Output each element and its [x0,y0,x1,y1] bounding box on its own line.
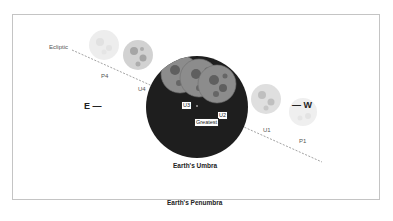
moon-u2-position [198,65,236,103]
u4-label: U4 [138,86,146,92]
greatest-label: Greatest [194,118,219,127]
p1-label: P1 [299,138,306,144]
umbra-label: Earth's Umbra [173,163,217,170]
eclipse-diagram [0,0,393,221]
moon-u1 [251,84,281,114]
moon-p4 [89,30,119,60]
p4-label: P4 [101,73,108,79]
east-direction-label: E — [84,102,102,111]
penumbra-label: Earth's Penumbra [167,200,222,207]
u3-label: U3 [181,101,192,110]
moon-u4 [123,40,153,70]
ecliptic-label: Ecliptic [49,44,68,50]
u1-label: U1 [263,127,271,133]
west-direction-label: — W [292,101,312,110]
